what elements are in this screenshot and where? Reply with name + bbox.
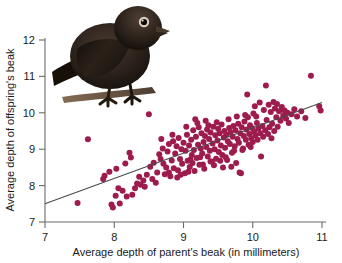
x-tick-label: 11 bbox=[316, 231, 327, 243]
x-axis-label: Average depth of parent's beak (in milli… bbox=[73, 246, 300, 258]
data-point bbox=[197, 154, 203, 160]
data-point bbox=[179, 161, 185, 167]
data-point bbox=[75, 200, 81, 206]
data-point bbox=[124, 194, 130, 200]
data-point bbox=[186, 143, 192, 149]
data-point bbox=[286, 120, 292, 126]
data-point bbox=[170, 138, 176, 144]
axis-group bbox=[45, 38, 326, 222]
data-point bbox=[169, 132, 175, 138]
data-point bbox=[166, 169, 172, 175]
data-point bbox=[192, 116, 198, 122]
data-point bbox=[226, 116, 232, 122]
data-point bbox=[308, 73, 314, 79]
data-point bbox=[263, 83, 269, 89]
data-point bbox=[236, 140, 242, 146]
data-point bbox=[85, 136, 91, 142]
data-point bbox=[142, 184, 148, 190]
y-tick-label: 10 bbox=[23, 107, 35, 119]
y-axis-label: Average depth of offspring's beak bbox=[4, 48, 16, 212]
data-point bbox=[183, 124, 189, 130]
data-point bbox=[185, 169, 191, 175]
data-point bbox=[231, 148, 237, 154]
data-point bbox=[233, 160, 239, 166]
data-point bbox=[205, 153, 211, 159]
data-point bbox=[102, 173, 108, 179]
data-point bbox=[257, 100, 263, 106]
x-tick-label: 8 bbox=[111, 231, 117, 243]
data-point bbox=[214, 119, 220, 125]
data-point bbox=[294, 113, 300, 119]
data-point bbox=[220, 164, 226, 170]
data-point bbox=[245, 114, 251, 120]
data-point bbox=[318, 108, 324, 114]
data-point bbox=[222, 145, 228, 151]
data-point bbox=[192, 168, 198, 174]
regression-line bbox=[45, 103, 322, 204]
data-point bbox=[217, 158, 223, 164]
data-point bbox=[291, 106, 297, 112]
x-tick-label: 7 bbox=[42, 231, 48, 243]
data-point bbox=[252, 103, 258, 109]
data-point bbox=[275, 124, 281, 130]
y-tick-label: 12 bbox=[23, 34, 35, 46]
data-point bbox=[187, 156, 193, 162]
data-point bbox=[234, 113, 240, 119]
data-point bbox=[113, 193, 119, 199]
data-point bbox=[110, 204, 116, 210]
y-tick-label: 8 bbox=[29, 180, 35, 192]
data-point bbox=[253, 113, 259, 119]
plot-area: 789101112 7891011 Average depth of paren… bbox=[0, 0, 342, 263]
data-point bbox=[228, 164, 234, 170]
y-tick-label: 9 bbox=[29, 143, 35, 155]
data-point bbox=[190, 127, 196, 133]
data-point bbox=[176, 135, 182, 141]
data-point bbox=[302, 115, 308, 121]
data-point bbox=[165, 148, 171, 154]
data-point bbox=[237, 169, 243, 175]
data-point bbox=[243, 137, 249, 143]
data-point bbox=[208, 159, 214, 165]
data-point bbox=[258, 153, 264, 159]
data-point bbox=[203, 118, 209, 124]
data-point bbox=[261, 107, 267, 113]
data-point bbox=[106, 169, 112, 175]
data-point bbox=[117, 200, 123, 206]
x-tick-label: 9 bbox=[180, 231, 186, 243]
y-tick-label: 11 bbox=[24, 70, 35, 82]
data-point bbox=[146, 111, 152, 117]
data-point bbox=[122, 160, 128, 166]
data-point bbox=[129, 192, 135, 198]
data-point bbox=[248, 144, 254, 150]
data-points-group bbox=[75, 73, 324, 211]
data-point bbox=[154, 169, 160, 175]
data-point bbox=[255, 137, 261, 143]
data-point bbox=[181, 140, 187, 146]
data-point bbox=[153, 180, 159, 186]
scatterplot-figure: 789101112 7891011 Average depth of paren… bbox=[0, 0, 342, 263]
y-tick-label: 7 bbox=[29, 216, 35, 228]
data-point bbox=[128, 155, 134, 161]
data-point bbox=[200, 161, 206, 167]
data-point bbox=[158, 136, 164, 142]
data-point bbox=[239, 147, 245, 153]
data-point bbox=[184, 132, 190, 138]
data-point bbox=[201, 139, 207, 145]
x-tick-label: 10 bbox=[247, 231, 259, 243]
data-point bbox=[144, 172, 150, 178]
data-point bbox=[113, 166, 119, 172]
data-point bbox=[163, 164, 169, 170]
x-tick-group: 7891011 bbox=[42, 222, 328, 243]
data-point bbox=[120, 188, 126, 194]
data-point bbox=[174, 175, 180, 181]
data-point bbox=[223, 154, 229, 160]
data-point bbox=[244, 92, 250, 98]
y-tick-group: 789101112 bbox=[23, 34, 45, 228]
data-point bbox=[193, 134, 199, 140]
data-point bbox=[268, 135, 274, 141]
data-point bbox=[140, 178, 146, 184]
